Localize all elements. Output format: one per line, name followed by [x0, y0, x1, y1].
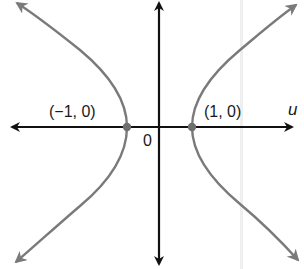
- origin-label: 0: [143, 133, 152, 149]
- vertex-left-label: (−1, 0): [49, 104, 96, 120]
- vertex-right-label: (1, 0): [204, 104, 241, 120]
- hyperbola-right-branch: [192, 5, 298, 260]
- vertex-left-point: [123, 123, 131, 131]
- hyperbola-left-branch: [16, 3, 127, 262]
- hyperbola-diagram: [0, 0, 304, 269]
- u-axis-label: u: [288, 101, 297, 118]
- vertex-right-point: [188, 123, 196, 131]
